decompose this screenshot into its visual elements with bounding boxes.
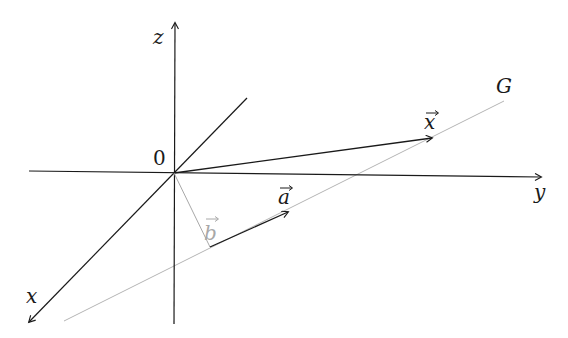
svg-text:b: b	[204, 221, 217, 245]
vector-x-label: x	[424, 110, 439, 134]
x-axis-back	[174, 98, 247, 173]
x-axis-label: x	[26, 284, 37, 308]
vector-x	[174, 138, 432, 173]
origin-label: 0	[153, 146, 166, 170]
y-axis-label: y	[533, 180, 546, 204]
vector-a-label: a	[278, 185, 293, 209]
svg-text:a: a	[278, 185, 290, 209]
coordinate-diagram: z y x 0 G x a b	[0, 0, 568, 338]
vector-b-label: b	[204, 217, 219, 246]
vector-a	[210, 212, 288, 247]
x-axis	[29, 173, 174, 322]
z-axis-label: z	[152, 25, 164, 49]
y-axis	[29, 171, 541, 177]
line-g	[64, 101, 504, 321]
svg-text:x: x	[424, 110, 435, 134]
line-g-label: G	[496, 74, 512, 98]
